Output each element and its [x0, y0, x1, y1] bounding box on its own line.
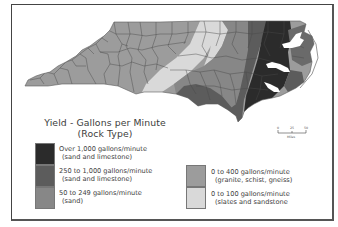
legend-subtitle: (Rock Type): [34, 128, 176, 139]
legend-item-0-rock: (sand and limestone): [62, 153, 132, 161]
legend-item-1-range: 250 to 1,000 gallons/minute: [59, 167, 152, 175]
scale-bar: [278, 130, 306, 133]
scale-unit: Miles: [287, 135, 295, 139]
legend-swatch-0-400: [186, 165, 206, 187]
legend-item-0-range: Over 1,000 gallons/minute: [59, 145, 147, 153]
legend-item-1-rock: (sand and limestone): [62, 175, 132, 183]
legend-item-2-rock: (sand): [62, 197, 83, 205]
legend-swatch-250-1000: [35, 165, 55, 187]
scale-tick-0: 0: [277, 126, 279, 130]
legend-item-3-rock: (granite, schist, gneiss): [215, 176, 292, 184]
legend-item-3-range: 0 to 400 gallons/minute: [211, 168, 290, 176]
legend-swatch-over-1000: [35, 143, 55, 165]
legend-item-4-range: 0 to 100 gallons/minute: [211, 190, 290, 198]
legend-swatch-50-249: [35, 187, 55, 209]
scale-tick-25: 25: [290, 126, 294, 130]
legend-item-4-rock: (slates and sandstone: [215, 198, 288, 206]
legend-title: Yield - Gallons per Minute: [34, 117, 176, 128]
legend-item-2-range: 50 to 249 gallons/minute: [59, 189, 142, 197]
legend-swatch-0-100: [186, 187, 206, 209]
scale-tick-50: 50: [304, 126, 308, 130]
